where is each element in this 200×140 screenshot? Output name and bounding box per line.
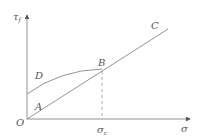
point-label-d: D: [34, 70, 43, 81]
point-label-a: A: [34, 101, 42, 112]
point-label-b: B: [97, 57, 105, 68]
origin-label: O: [16, 117, 24, 128]
shear-strength-diagram: τf σ O A B C D σc: [0, 0, 200, 140]
y-axis-label: τf: [13, 11, 23, 24]
sigma-c-label: σc: [97, 124, 108, 136]
line-oabc: [27, 29, 168, 119]
point-label-c: C: [151, 20, 159, 31]
x-axis-label: σ: [181, 123, 189, 134]
